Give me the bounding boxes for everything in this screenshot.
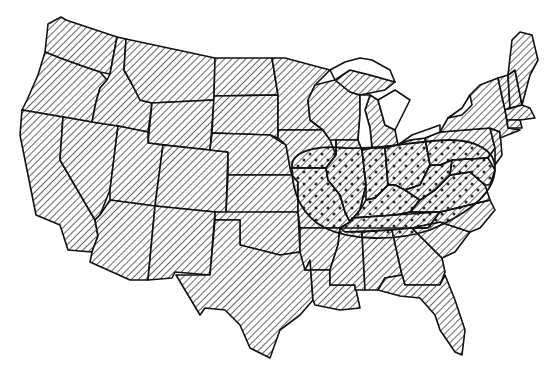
state-new-mexico xyxy=(148,206,215,280)
state-south-dakota xyxy=(212,95,278,138)
state-florida xyxy=(378,275,465,355)
state-north-dakota xyxy=(214,58,278,96)
state-connecticut xyxy=(507,120,522,128)
state-colorado xyxy=(155,145,228,213)
state-montana xyxy=(124,39,215,103)
us-map xyxy=(0,0,548,374)
state-wyoming xyxy=(148,100,214,150)
state-kansas xyxy=(226,175,298,213)
